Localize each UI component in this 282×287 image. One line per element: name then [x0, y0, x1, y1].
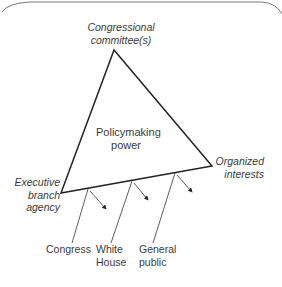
- triangle: [61, 50, 212, 193]
- label-policymaking-power: Policymakingpower: [96, 126, 156, 151]
- congress-arrow: [90, 191, 106, 209]
- frame-border: [2, 2, 282, 14]
- congress-line: [72, 189, 88, 243]
- label-general-public: Generalpublic: [139, 243, 179, 268]
- label-executive-branch-agency: Executivebranchagency: [12, 176, 60, 214]
- label-white-house: WhiteHouse: [96, 243, 126, 268]
- label-organized-interests: Organizedinterests: [214, 155, 264, 180]
- public-line: [153, 173, 175, 243]
- public-arrow: [177, 175, 192, 192]
- whitehouse-arrow: [134, 183, 148, 200]
- label-congressional-committees: Congressionalcommittee(s): [78, 21, 164, 46]
- label-congress: Congress: [46, 243, 86, 256]
- whitehouse-line: [111, 181, 132, 243]
